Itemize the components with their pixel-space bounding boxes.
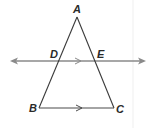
segment-ac [77,17,114,108]
triangle-abc [39,17,114,111]
label-e: E [97,48,105,60]
line-de [10,58,146,65]
label-b: B [29,102,37,114]
diagram-canvas: A D E B C [0,0,152,128]
triangle-diagram: A D E B C [0,0,152,128]
label-c: C [116,103,125,115]
label-a: A [72,3,81,15]
segment-ab [39,17,77,108]
label-d: D [50,48,58,60]
